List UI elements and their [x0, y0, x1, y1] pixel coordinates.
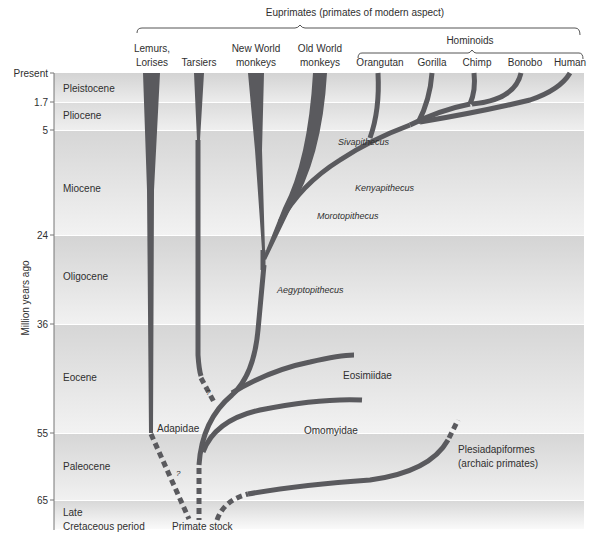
label-morotopithecus: Morotopithecus [317, 211, 379, 221]
epoch-pleistocene: Pleistocene [63, 83, 115, 94]
taxon-gorilla: Gorilla [418, 57, 447, 68]
taxon-lemurs-line2: Lorises [136, 57, 168, 68]
tick-65: 65 [37, 495, 49, 506]
label-primate-stock: Primate stock [172, 521, 234, 532]
epoch-late: Late [63, 507, 83, 518]
taxon-chimp: Chimp [463, 57, 492, 68]
tick-present: Present [14, 68, 49, 79]
label-adapidae: Adapidae [157, 423, 200, 434]
label-kenyapithecus: Kenyapithecus [355, 183, 415, 193]
label-aegyptopithecus: Aegyptopithecus [276, 285, 344, 295]
taxon-human: Human [554, 57, 586, 68]
axis-title: Million years ago [20, 260, 31, 335]
epoch-cretaceous: Cretaceous period [63, 521, 145, 532]
epoch-paleocene: Paleocene [63, 461, 111, 472]
taxon-nwm-line2: monkeys [236, 57, 276, 68]
epoch-oligocene: Oligocene [63, 271, 108, 282]
uncertain-mark-adapidae: ? [176, 469, 181, 478]
epoch-pliocene: Pliocene [63, 110, 102, 121]
label-plesiadapiformes-2: (archaic primates) [458, 458, 538, 469]
taxa-labels: Lemurs, Lorises Tarsiers New World monke… [134, 43, 586, 68]
tick-36: 36 [37, 319, 49, 330]
taxon-tarsiers: Tarsiers [181, 57, 216, 68]
taxon-nwm-line1: New World [232, 43, 281, 54]
label-omomyidae: Omomyidae [304, 425, 358, 436]
taxon-bonobo: Bonobo [508, 57, 543, 68]
label-sivapithecus: Sivapithecus [338, 137, 390, 147]
taxon-owm-line2: monkeys [300, 57, 340, 68]
tick-1-7: 1.7 [34, 97, 48, 108]
taxon-lemurs-line1: Lemurs, [134, 43, 170, 54]
epoch-eocene: Eocene [63, 372, 97, 383]
hominoids-label: Hominoids [446, 35, 493, 46]
taxon-orangutan: Orangutan [356, 57, 403, 68]
euprimates-bracket [137, 25, 580, 35]
label-eosimiidae: Eosimiidae [343, 370, 392, 381]
epoch-miocene: Miocene [63, 183, 101, 194]
tick-55: 55 [37, 428, 49, 439]
label-plesiadapiformes-1: Plesiadapiformes [458, 444, 535, 455]
band-oligocene [54, 236, 584, 324]
time-axis: Present 1.7 5 24 36 55 65 Million years … [14, 68, 54, 530]
taxon-owm-line1: Old World [298, 43, 342, 54]
primate-phylogeny-diagram: Present 1.7 5 24 36 55 65 Million years … [0, 0, 600, 546]
uncertain-mark-tarsiers: ? [206, 388, 211, 397]
tick-24: 24 [37, 230, 49, 241]
band-eocene [54, 325, 584, 433]
euprimates-label: Euprimates (primates of modern aspect) [266, 7, 444, 18]
clade-brackets [137, 25, 583, 59]
tick-5: 5 [42, 125, 48, 136]
